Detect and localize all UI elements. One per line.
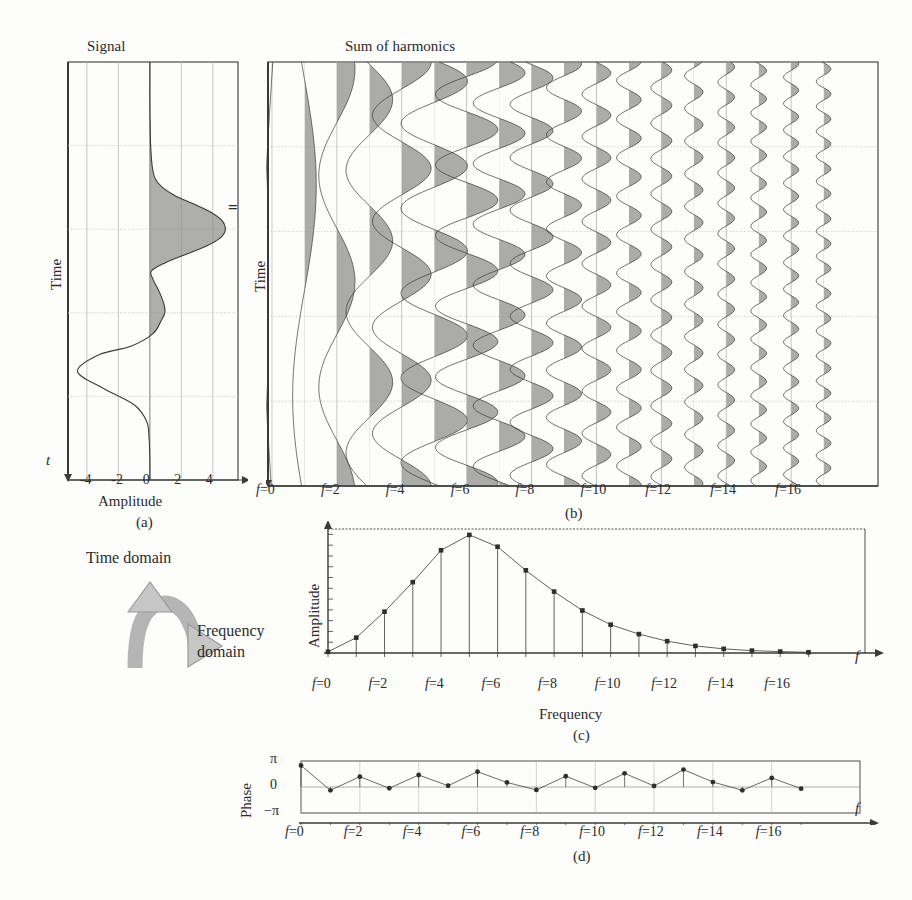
time-domain-label: Time domain [86,549,171,567]
panel-d-plot [295,755,880,825]
panel-c-x-axis-label: Frequency [539,706,602,723]
panel-a-title: Signal [87,38,125,55]
tick-label: f=6 [451,482,470,498]
tick-label: f=2 [321,482,340,498]
tick-label: -4 [80,472,92,488]
tick-label: f=10 [580,482,606,498]
tick-label: f=12 [651,676,677,692]
panel-c-caption: (c) [573,727,590,744]
tick-label: f=8 [520,824,539,840]
tick-label: f=14 [708,676,734,692]
tick-label: f=14 [697,824,723,840]
tick-label: f=0 [285,824,304,840]
figure-fourier-decomposition: Signal Time t -4-2024 Amplitude (a) = Su… [0,0,912,900]
tick-label: f=4 [386,482,405,498]
tick-label: 2 [174,472,181,488]
tick-label: −π [264,803,279,819]
frequency-domain-label-line1: Frequency [197,622,265,640]
panel-a-caption: (a) [136,514,153,531]
panel-b-plot [266,60,880,488]
panel-c-f-label: f [855,648,859,665]
tick-label: f=8 [516,482,535,498]
panel-a-time-arrow-label: t [46,452,50,469]
tick-label: f=12 [638,824,664,840]
panel-b-title: Sum of harmonics [345,38,455,55]
tick-label: f=16 [775,482,801,498]
tick-label: f=8 [538,676,557,692]
tick-label: -2 [111,472,123,488]
tick-label: π [270,751,277,767]
panel-a-plot [58,58,248,488]
tick-label: f=10 [579,824,605,840]
panel-b-caption: (b) [565,505,583,522]
tick-label: f=12 [645,482,671,498]
tick-label: f=2 [344,824,363,840]
tick-label: f=0 [256,482,275,498]
equals-operator: = [228,198,238,218]
tick-label: f=16 [756,824,782,840]
tick-label: 4 [206,472,213,488]
panel-d-y-axis-label: Phase [238,783,255,818]
panel-d-f-label: f [855,800,859,817]
tick-label: 0 [270,777,277,793]
tick-label: f=6 [462,824,481,840]
tick-label: f=2 [369,676,388,692]
tick-label: f=0 [312,676,331,692]
tick-label: f=14 [710,482,736,498]
tick-label: f=4 [425,676,444,692]
panel-a-x-axis-label: Amplitude [98,493,162,510]
tick-label: f=6 [482,676,501,692]
tick-label: f=4 [403,824,422,840]
tick-label: f=16 [764,676,790,692]
frequency-domain-label-line2: domain [197,643,245,661]
tick-label: f=10 [595,676,621,692]
tick-label: 0 [143,472,150,488]
panel-c-plot [320,521,885,686]
panel-d-caption: (d) [573,848,591,865]
